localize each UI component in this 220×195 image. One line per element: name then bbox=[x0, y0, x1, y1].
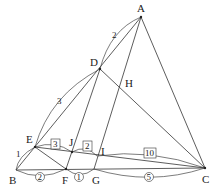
ratio-EJ: 3 bbox=[53, 139, 58, 149]
label-J: J bbox=[69, 136, 74, 148]
label-B: B bbox=[9, 174, 16, 186]
length-EB: 1 bbox=[16, 149, 21, 159]
ratio-BF: 2 bbox=[38, 172, 43, 182]
ratio-FG: 1 bbox=[77, 172, 82, 182]
label-D: D bbox=[90, 56, 98, 68]
label-A: A bbox=[137, 2, 145, 14]
label-I: I bbox=[101, 145, 105, 157]
point-E bbox=[34, 146, 36, 148]
label-C: C bbox=[202, 173, 209, 185]
label-E: E bbox=[26, 133, 33, 145]
point-C bbox=[204, 167, 206, 169]
point-A bbox=[140, 16, 142, 18]
length-AD: 2 bbox=[112, 30, 117, 40]
label-G: G bbox=[92, 174, 100, 186]
geometry-diagram: A B C D E F G H I J 2 3 1 3 2 10 2 1 5 bbox=[0, 0, 220, 195]
ratio-IC: 10 bbox=[145, 148, 155, 158]
point-J bbox=[71, 151, 73, 153]
length-DE: 3 bbox=[57, 96, 62, 106]
point-D bbox=[99, 68, 101, 70]
point-F bbox=[65, 168, 67, 170]
segment-AC bbox=[141, 17, 205, 168]
ratio-JI: 2 bbox=[85, 141, 90, 151]
label-H: H bbox=[125, 77, 133, 89]
segment-BC bbox=[16, 168, 205, 170]
ratio-GC: 5 bbox=[147, 172, 152, 182]
label-F: F bbox=[62, 174, 68, 186]
